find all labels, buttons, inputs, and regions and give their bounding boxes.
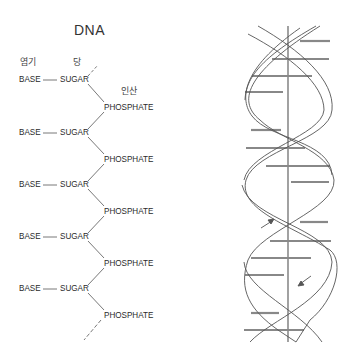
- helix-strands: [242, 26, 342, 342]
- double-helix: [0, 0, 352, 361]
